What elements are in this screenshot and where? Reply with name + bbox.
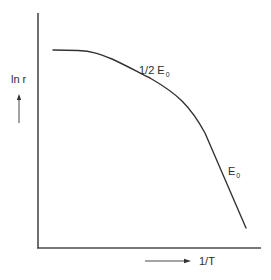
y-axis-label: ln r [11, 73, 26, 85]
x-axis-label: 1/T [199, 255, 215, 267]
activation-energy-label: E0 [228, 165, 240, 182]
x-arrow-icon [145, 259, 191, 263]
half-activation-energy-label: 1/2 E0 [139, 64, 170, 81]
y-arrow-icon [17, 94, 21, 123]
arrhenius-diagram: ln r 1/T 1/2 E0 E0 [0, 0, 271, 280]
diagram-canvas [0, 0, 271, 280]
